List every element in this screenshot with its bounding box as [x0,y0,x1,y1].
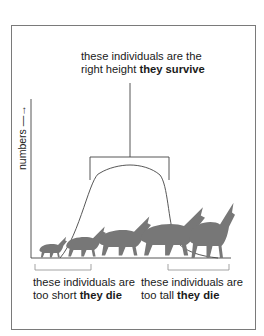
too-short-plain: too short [33,289,80,301]
too-short-label: these individuals are too short they die [33,276,135,302]
too-short-bracket [35,264,91,270]
antelope-icon-5 [189,203,235,258]
too-short-label-line1: these individuals are [33,276,135,289]
antelope-group [39,203,235,258]
too-tall-label-line1: these individuals are [141,276,243,289]
too-tall-plain: too tall [141,289,177,301]
too-tall-label-line2: too tall they die [141,289,243,302]
too-short-bold: they die [80,289,122,301]
too-tall-label: these individuals are too tall they die [141,276,243,302]
survive-bracket [90,157,169,180]
too-tall-bracket [168,264,229,270]
too-short-label-line2: too short they die [33,289,135,302]
too-tall-bold: they die [177,289,219,301]
